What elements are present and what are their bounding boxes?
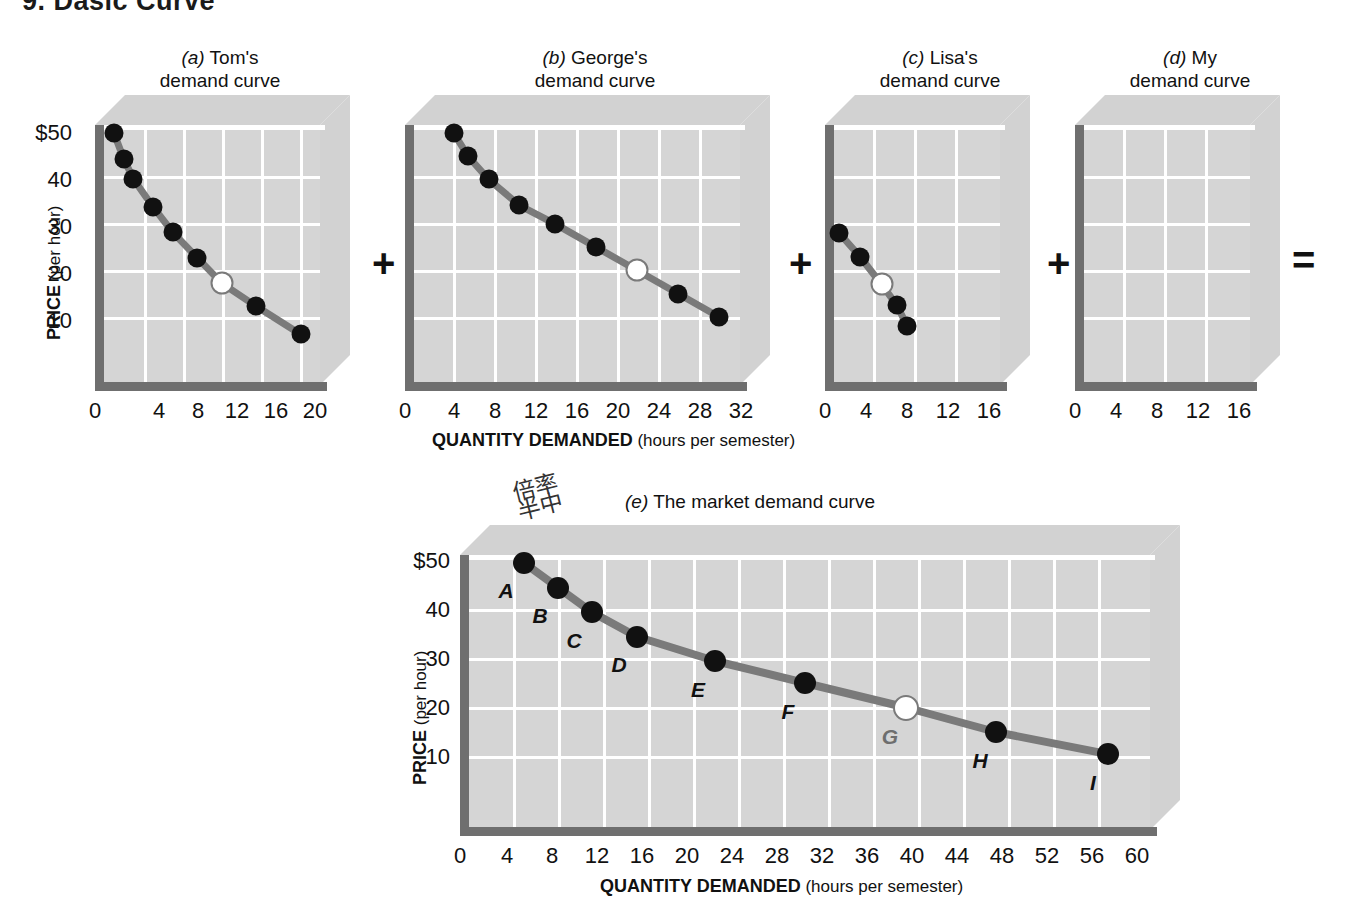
panel-title-b: (b) George's demand curve bbox=[480, 46, 710, 92]
data-point bbox=[709, 307, 728, 326]
top-row-x-axis-title: QUANTITY DEMANDED (hours per semester) bbox=[432, 430, 795, 451]
y-axis-title-paren: (per hour) bbox=[411, 651, 430, 730]
chart-e-y-axis-title: PRICE (per hour) bbox=[410, 651, 431, 785]
panel-title-e: (e) The market demand curve bbox=[540, 490, 960, 513]
data-point bbox=[546, 214, 565, 233]
chart-e-xtick: 52 bbox=[1030, 843, 1064, 869]
panel-d-line2: demand curve bbox=[1130, 70, 1250, 91]
x-axis-title-bold: QUANTITY DEMANDED bbox=[600, 876, 801, 896]
panel-b-name: George's bbox=[566, 47, 648, 68]
chart-a bbox=[95, 95, 350, 400]
panel-title-c: (c) Lisa's demand curve bbox=[845, 46, 1035, 92]
chart-e-xtick: 4 bbox=[490, 843, 524, 869]
chart-c-xtick: 16 bbox=[972, 398, 1006, 424]
data-point-highlight bbox=[870, 273, 893, 296]
point-label-C: C bbox=[566, 629, 581, 653]
chart-e-xtick: 40 bbox=[895, 843, 929, 869]
chart-e-xtick: 20 bbox=[670, 843, 704, 869]
chart-b-xtick: 8 bbox=[478, 398, 512, 424]
data-point bbox=[144, 197, 163, 216]
data-point-highlight bbox=[893, 695, 919, 721]
panel-a-line2: demand curve bbox=[160, 70, 280, 91]
panel-a-prefix: (a) bbox=[181, 47, 204, 68]
data-point bbox=[513, 552, 535, 574]
data-point bbox=[459, 147, 478, 166]
data-point bbox=[291, 325, 310, 344]
gridline-v bbox=[1205, 130, 1208, 385]
chart-d-xtick: 8 bbox=[1140, 398, 1174, 424]
data-point bbox=[1097, 743, 1119, 765]
panel-d-prefix: (d) bbox=[1163, 47, 1186, 68]
panel-title-d: (d) My demand curve bbox=[1075, 46, 1305, 92]
chart-d-top-edge bbox=[1083, 125, 1255, 130]
panel-c-line2: demand curve bbox=[880, 70, 1000, 91]
gridline-h bbox=[1083, 270, 1250, 273]
chart-d-plot-area bbox=[1083, 130, 1250, 385]
chart-e: A B C D E F G H I bbox=[460, 525, 1180, 845]
chart-d-top-face bbox=[1075, 95, 1280, 125]
data-point bbox=[479, 170, 498, 189]
chart-b-xtick: 0 bbox=[388, 398, 422, 424]
chart-e-curve bbox=[460, 525, 1180, 845]
chart-b-xtick: 12 bbox=[519, 398, 553, 424]
data-point bbox=[704, 650, 726, 672]
data-point bbox=[794, 672, 816, 694]
chart-e-xtick: 44 bbox=[940, 843, 974, 869]
chart-e-xtick: 8 bbox=[535, 843, 569, 869]
chart-d-xtick: 16 bbox=[1222, 398, 1256, 424]
chart-d-xtick: 0 bbox=[1058, 398, 1092, 424]
chart-a-xtick: 4 bbox=[142, 398, 176, 424]
data-point bbox=[887, 296, 906, 315]
chart-a-xtick: 12 bbox=[220, 398, 254, 424]
point-label-I: I bbox=[1090, 771, 1096, 795]
chart-d-y-axis bbox=[1075, 125, 1084, 390]
data-point bbox=[114, 149, 133, 168]
chart-c-xtick: 4 bbox=[849, 398, 883, 424]
gridline-v bbox=[1123, 130, 1126, 385]
figure-root: 9. Dasic Curve (a) Tom's demand curve (b… bbox=[0, 0, 1362, 910]
panel-c-prefix: (c) bbox=[902, 47, 924, 68]
chart-c-xtick: 0 bbox=[808, 398, 842, 424]
data-point bbox=[587, 238, 606, 257]
chart-d-xtick: 12 bbox=[1181, 398, 1215, 424]
chart-e-xtick: 60 bbox=[1120, 843, 1154, 869]
operator-plus-2: + bbox=[789, 243, 812, 283]
x-axis-title-paren: (hours per semester) bbox=[633, 431, 796, 450]
data-point bbox=[510, 196, 529, 215]
operator-plus-1: + bbox=[372, 243, 395, 283]
chart-a-xtick: 0 bbox=[78, 398, 112, 424]
chart-b-xtick: 16 bbox=[560, 398, 594, 424]
chart-a-ytick: 40 bbox=[20, 167, 72, 193]
point-label-F: F bbox=[782, 700, 795, 724]
top-row-y-axis-title: PRICE (per hour) bbox=[44, 206, 65, 340]
chart-b-xtick: 24 bbox=[642, 398, 676, 424]
chart-b-xtick: 28 bbox=[683, 398, 717, 424]
chart-b-xtick: 20 bbox=[601, 398, 635, 424]
chart-e-xtick: 28 bbox=[760, 843, 794, 869]
chart-e-xtick: 0 bbox=[443, 843, 477, 869]
data-point bbox=[104, 124, 123, 143]
chart-a-xtick: 8 bbox=[181, 398, 215, 424]
chart-b-xtick: 32 bbox=[724, 398, 758, 424]
data-point bbox=[985, 721, 1007, 743]
chart-a-xtick: 20 bbox=[298, 398, 332, 424]
data-point bbox=[163, 223, 182, 242]
panel-d-name: My bbox=[1186, 47, 1217, 68]
data-point bbox=[188, 248, 207, 267]
panel-e-name: The market demand curve bbox=[648, 491, 875, 512]
panel-c-name: Lisa's bbox=[924, 47, 977, 68]
chart-c bbox=[825, 95, 1030, 400]
data-point bbox=[547, 577, 569, 599]
chart-e-xtick: 36 bbox=[850, 843, 884, 869]
chart-e-xtick: 16 bbox=[625, 843, 659, 869]
operator-equals: = bbox=[1292, 240, 1315, 280]
panel-b-line2: demand curve bbox=[535, 70, 655, 91]
chart-d bbox=[1075, 95, 1280, 400]
data-point bbox=[581, 601, 603, 623]
data-point bbox=[898, 317, 917, 336]
chart-e-xtick: 12 bbox=[580, 843, 614, 869]
data-point-highlight bbox=[211, 272, 234, 295]
operator-plus-3: + bbox=[1047, 243, 1070, 283]
panel-b-prefix: (b) bbox=[542, 47, 565, 68]
point-label-D: D bbox=[611, 653, 626, 677]
